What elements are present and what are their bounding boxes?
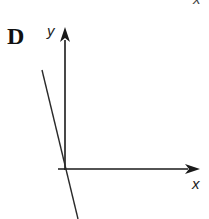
plotted-line [42,70,78,219]
axes-graphic [0,0,209,219]
y-axis-arrow-icon [60,27,70,42]
